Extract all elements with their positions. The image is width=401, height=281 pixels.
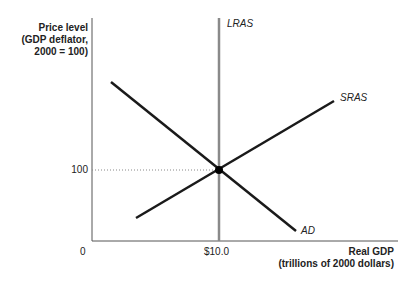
x-axis-label-line-1: Real GDP xyxy=(240,246,394,258)
origin-label: 0 xyxy=(80,246,86,258)
equilibrium-point xyxy=(215,166,223,174)
x-axis-label: Real GDP (trillions of 2000 dollars) xyxy=(240,246,394,270)
x-axis-label-line-2: (trillions of 2000 dollars) xyxy=(240,258,394,270)
y-axis-label-line-3: 2000 = 100) xyxy=(14,46,88,58)
y-axis-label: Price level (GDP deflator, 2000 = 100) xyxy=(14,22,88,58)
lras-label: LRAS xyxy=(227,18,253,30)
x-tick-10: $10.0 xyxy=(204,246,229,258)
y-axis-label-line-2: (GDP deflator, xyxy=(14,34,88,46)
ad-label: AD xyxy=(301,225,315,237)
ad-line xyxy=(111,82,296,231)
y-tick-100: 100 xyxy=(64,164,88,176)
sras-label: SRAS xyxy=(340,92,367,104)
y-axis-label-line-1: Price level xyxy=(14,22,88,34)
sras-line xyxy=(136,101,334,218)
